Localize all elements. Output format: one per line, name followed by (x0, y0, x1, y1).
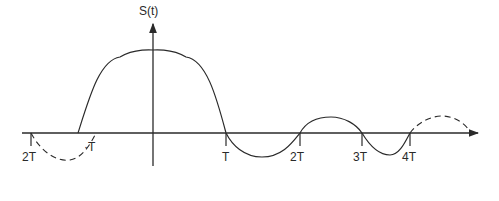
tick-label-neg-2t: 2T (22, 150, 36, 164)
y-axis-label: S(t) (139, 4, 158, 18)
tick-label-4t: 4T (402, 150, 416, 164)
diagram-canvas (0, 0, 499, 201)
main-pulse-curve (78, 50, 410, 157)
dashed-right-lobe (410, 116, 471, 133)
tick-label-neg-t: ·T (84, 140, 95, 154)
tick-label-2t: 2T (290, 150, 304, 164)
tick-label-3t: 3T (353, 150, 367, 164)
tick-label-t: T (222, 150, 229, 164)
